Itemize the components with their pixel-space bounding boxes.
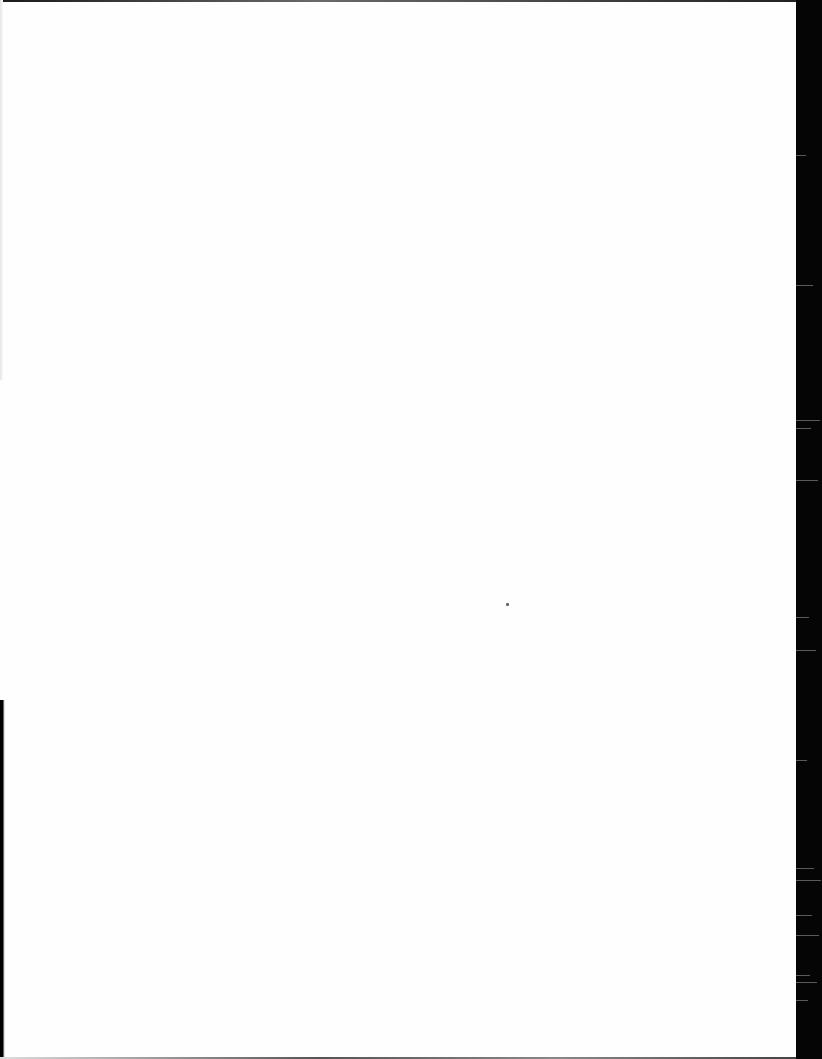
page-top-edge (0, 0, 796, 2)
scanner-streak (796, 868, 814, 869)
dust-speck (506, 603, 509, 606)
page-left-edge-border (0, 700, 5, 1059)
scanner-streak (796, 480, 818, 481)
scanner-streak (796, 420, 820, 421)
scanner-streak (796, 982, 817, 983)
scanner-streak (796, 617, 809, 618)
blank-paper-page (0, 0, 796, 1059)
scanner-streak (796, 155, 806, 156)
scanner-streak (796, 975, 810, 976)
scanner-streak (796, 880, 821, 881)
scanned-image (0, 0, 822, 1059)
scanner-streak (796, 428, 811, 429)
page-left-edge-shadow (0, 0, 3, 380)
scanner-streak (796, 285, 813, 286)
scanner-streak (796, 935, 819, 936)
scanner-background-strip (796, 0, 822, 1059)
scanner-streak (796, 915, 812, 916)
scanner-streak (796, 760, 807, 761)
scanner-streak (796, 1000, 808, 1001)
scanner-streak (796, 650, 816, 651)
